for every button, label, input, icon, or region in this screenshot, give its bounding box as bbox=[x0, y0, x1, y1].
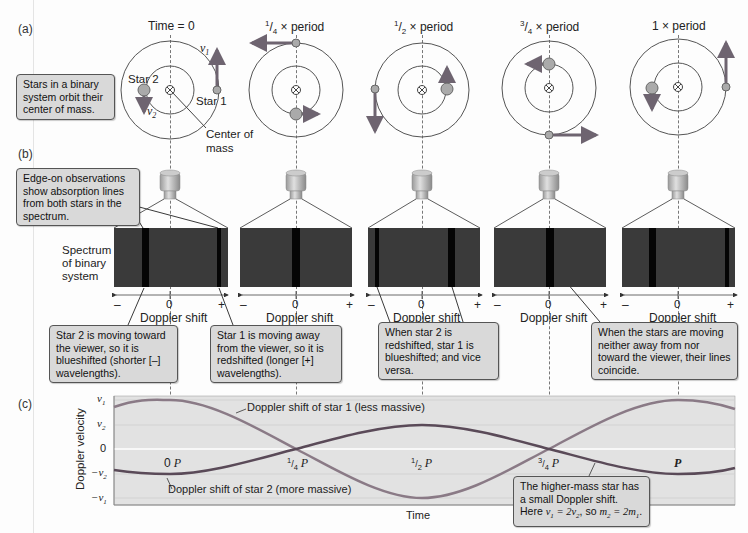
absorption-line-star2 bbox=[649, 228, 656, 287]
spectrum-t1 bbox=[240, 228, 352, 287]
axis-minus: – bbox=[622, 298, 629, 312]
doppler-axis-arrows bbox=[116, 291, 737, 299]
absorption-line-star1 bbox=[217, 228, 221, 287]
absorption-line-coincident bbox=[546, 228, 554, 287]
telescope-icon bbox=[160, 170, 688, 199]
callout-star2-blueshift: Star 2 is moving toward the viewer, so i… bbox=[49, 325, 178, 383]
y-tick-v2: v2 bbox=[97, 417, 105, 432]
callout-star1-redshift: Star 1 is moving away from the viewer, s… bbox=[210, 325, 342, 383]
spectrum-t4 bbox=[622, 228, 735, 287]
y-axis-label: Doppler velocity bbox=[74, 408, 86, 490]
spectrum-label: Spectrum of binary system bbox=[62, 244, 114, 283]
axis-label: Doppler shift bbox=[520, 311, 587, 325]
axis-minus: – bbox=[368, 298, 375, 312]
axis-minus: – bbox=[114, 298, 121, 312]
callout-edge-on: Edge-on observations show absorption lin… bbox=[16, 168, 140, 226]
annotation-mass-formula: m2 = 2m1 bbox=[599, 506, 639, 517]
spectrum-t0 bbox=[114, 228, 228, 287]
axis-zero: 0 bbox=[166, 298, 172, 310]
callout-higher-mass: The higher-mass star has a small Doppler… bbox=[513, 476, 650, 527]
x-tick-p: P bbox=[674, 456, 681, 471]
absorption-line-star1 bbox=[375, 228, 379, 287]
axis-plus: + bbox=[727, 298, 734, 312]
x-axis-label: Time bbox=[406, 509, 430, 521]
center-of-mass-icon bbox=[166, 83, 683, 95]
axis-plus: + bbox=[346, 298, 353, 312]
y-tick-neg-v2: −v2 bbox=[91, 466, 107, 481]
x-tick-quarter-p: 1/4 P bbox=[287, 456, 308, 472]
telescope-fan-lines bbox=[114, 199, 735, 228]
x-tick-three-quarter-p: 3/4 P bbox=[538, 456, 559, 472]
v1-label: v1 bbox=[200, 41, 209, 57]
absorption-line-coincident bbox=[292, 228, 300, 287]
callout-coincide: When the stars are moving neither away f… bbox=[591, 322, 738, 380]
callout-vice-versa: When star 2 is redshifted, star 1 is blu… bbox=[378, 322, 499, 380]
axis-zero: 0 bbox=[545, 298, 551, 310]
legend-star1: Doppler shift of star 1 (less massive) bbox=[247, 401, 425, 413]
y-tick-neg-v1: −v1 bbox=[91, 491, 107, 506]
star1-label: Star 1 bbox=[196, 95, 227, 107]
legend-star2: Doppler shift of star 2 (more massive) bbox=[168, 483, 351, 495]
axis-zero: 0 bbox=[292, 298, 298, 310]
axis-label: Doppler shift bbox=[140, 311, 207, 325]
star2-label: Star 2 bbox=[128, 73, 159, 85]
v2-label: v2 bbox=[147, 104, 156, 120]
absorption-line-star2 bbox=[142, 228, 149, 287]
center-of-mass-label: Center of mass bbox=[206, 127, 256, 155]
axis-minus: – bbox=[240, 298, 247, 312]
spectrum-t3 bbox=[494, 228, 606, 287]
spectrum-t2 bbox=[368, 228, 480, 287]
annotation-formula: v1 = 2v2 bbox=[546, 506, 580, 517]
axis-zero: 0 bbox=[674, 298, 680, 310]
absorption-line-star1 bbox=[725, 228, 729, 287]
axis-plus: + bbox=[474, 298, 481, 312]
y-tick-v1: v1 bbox=[97, 392, 105, 407]
axis-plus: + bbox=[218, 298, 225, 312]
absorption-line-star2 bbox=[448, 228, 455, 287]
axis-minus: – bbox=[494, 298, 501, 312]
x-tick-half-p: 1/2 P bbox=[411, 456, 432, 472]
x-tick-0p: 0 P bbox=[164, 456, 181, 471]
axis-label: Doppler shift bbox=[266, 311, 333, 325]
axis-plus: + bbox=[600, 298, 607, 312]
y-tick-zero: 0 bbox=[100, 442, 106, 454]
axis-zero: 0 bbox=[418, 298, 424, 310]
